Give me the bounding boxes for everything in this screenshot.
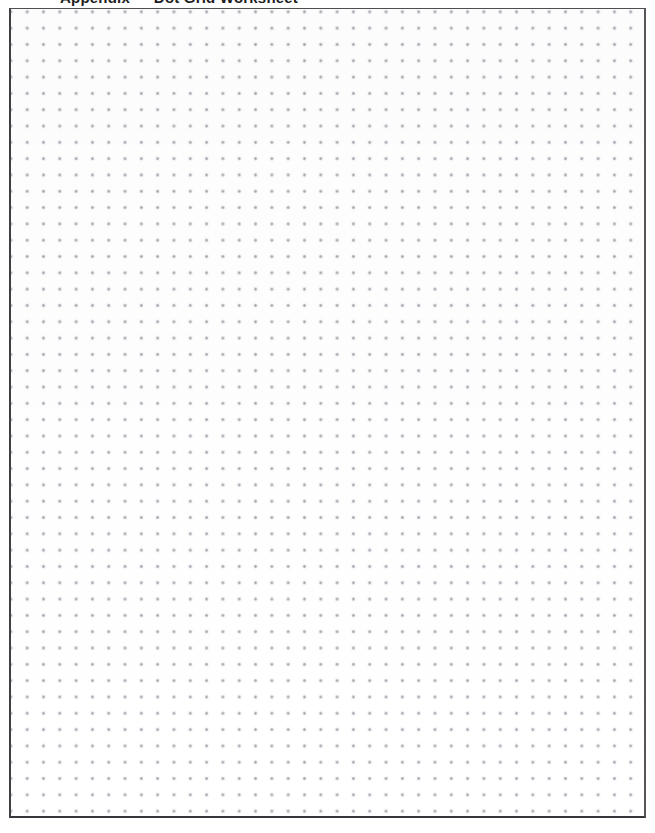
dot-grid-sheet: [9, 8, 646, 818]
dot-grid-pattern: [11, 9, 644, 816]
page-title: Appendix — Dot Grid Worksheet: [60, 0, 298, 6]
document-page: Appendix — Dot Grid Worksheet dot lattic…: [0, 0, 655, 833]
cropped-header-strip: Appendix — Dot Grid Worksheet: [0, 0, 655, 8]
